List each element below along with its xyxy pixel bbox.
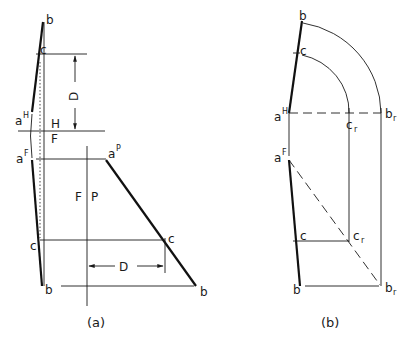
dashed-line-aF-br [289,160,380,285]
label-aH-sup: H [282,107,288,116]
caption-a: (a) [87,315,105,330]
label-aF-sup: F [282,148,287,157]
line-aH-aF-connector [31,114,33,158]
label-b-bottom: b [293,283,301,297]
view-a: D H F F P D b c a H a F c b a P c [15,13,208,330]
label-cr-top-sub: r [354,125,358,134]
label-aH-sup: H [23,111,29,120]
label-br-bottom-sub: r [393,288,397,297]
label-br-top: b [385,107,393,121]
label-br-top-sub: r [393,114,397,123]
dim-d-vertical-label: D [67,92,81,101]
label-c-profile: c [168,232,175,246]
line-b-aH-top-view [289,21,302,113]
dim-d-horizontal-label: D [119,260,128,274]
orthographic-rotation-diagram: D H F F P D b c a H a F c b a P c [0,0,410,343]
label-br-bottom: b [385,281,393,295]
label-b-bottom: b [45,283,53,297]
label-H-ref: H [51,117,60,131]
label-aF: a [16,152,23,166]
label-cr-top: c [346,118,353,132]
label-cr-bottom: c [353,229,360,243]
rotation-arc-b [303,23,381,113]
label-F-ref: F [51,132,58,146]
label-c-bottom: c [30,239,37,253]
line-b-aH-top-view [32,22,43,112]
label-c-bottom: c [300,229,307,243]
label-P-ref: P [91,190,98,204]
label-aF: a [274,151,281,165]
label-c-top: c [40,43,47,57]
label-aH: a [15,114,22,128]
label-aF-sup: F [24,149,29,158]
label-c-top: c [300,44,307,58]
label-aH: a [274,110,281,124]
label-b-top: b [46,13,54,27]
caption-b: (b) [321,315,339,330]
view-b: b c a H b r c r a F c c r b b r (b) [274,9,397,330]
line-aF-b-front-view [289,160,300,286]
label-b-profile: b [200,285,208,299]
label-aP-sup: P [116,144,121,153]
label-aP: a [108,147,115,161]
label-cr-bottom-sub: r [361,236,365,245]
label-F-ref-2: F [75,190,82,204]
line-aF-b-front-view [32,160,42,286]
label-b-top: b [299,9,307,23]
rotation-arc-c [302,55,349,113]
